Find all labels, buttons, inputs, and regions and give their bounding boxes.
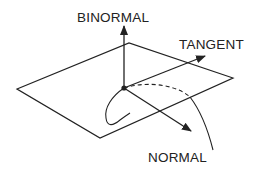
normal-arrow: [124, 88, 191, 131]
normal-label: NORMAL: [148, 150, 207, 165]
tangent-arrow: [124, 56, 205, 88]
frenet-frame-diagram: BINORMAL TANGENT NORMAL: [0, 0, 266, 172]
curve-solid-segment: [190, 97, 213, 150]
curve-hook: [106, 88, 130, 125]
tangent-label: TANGENT: [179, 37, 244, 52]
origin-point: [121, 85, 126, 90]
binormal-label: BINORMAL: [77, 10, 149, 25]
